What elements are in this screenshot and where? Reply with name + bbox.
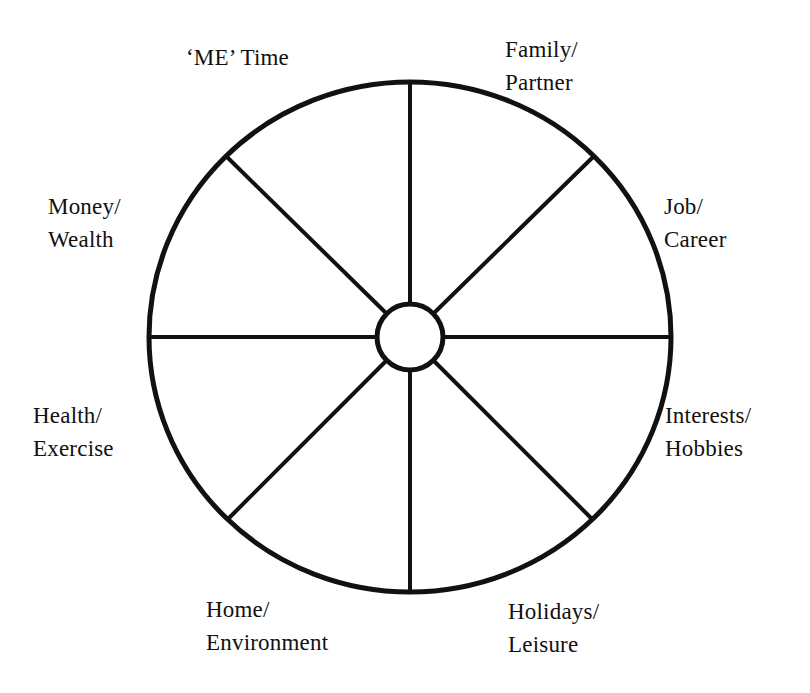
segment-label-job-career: Job/ Career <box>664 191 804 256</box>
segment-label-holidays-leisure: Holidays/ Leisure <box>508 596 678 661</box>
segment-label-interests-hobbies: Interests/ Hobbies <box>665 400 810 465</box>
segment-label-money-wealth: Money/ Wealth <box>48 191 198 256</box>
segment-label-health-exercise: Health/ Exercise <box>33 400 183 465</box>
segment-label-family-partner: Family/ Partner <box>505 34 675 99</box>
wheel-graphic <box>0 0 810 693</box>
segment-label-home-environment: Home/ Environment <box>206 594 406 659</box>
wheel-of-life-diagram: ‘ME’ Time Family/ Partner Job/ Career In… <box>0 0 810 693</box>
center-hub-circle <box>377 304 443 370</box>
segment-label-me-time: ‘ME’ Time <box>186 42 336 75</box>
